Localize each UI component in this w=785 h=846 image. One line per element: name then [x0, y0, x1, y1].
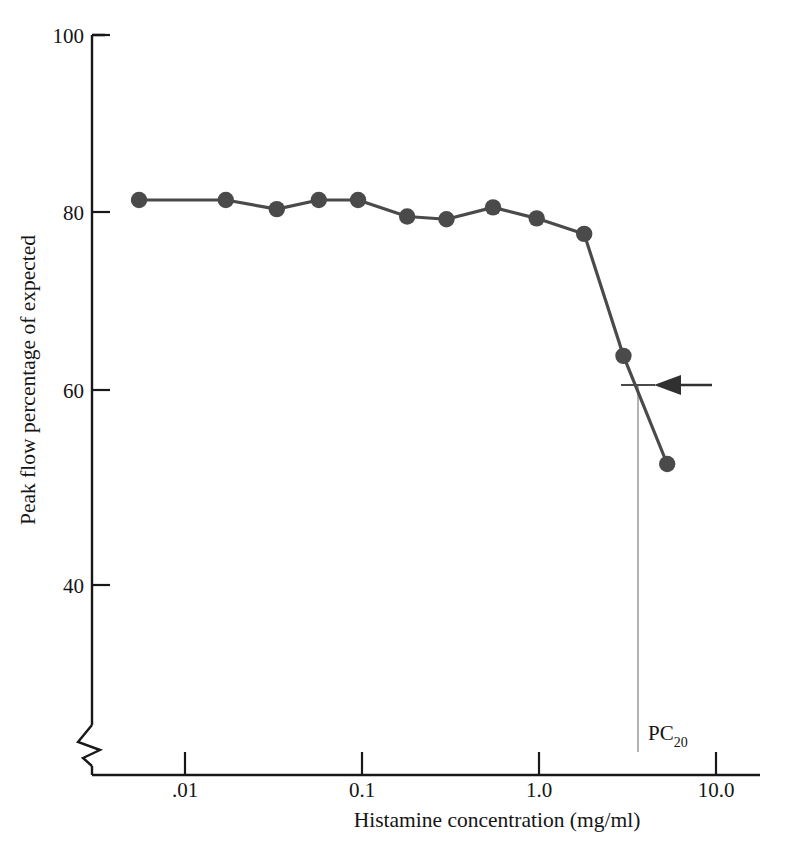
pc20-label-base: PC	[648, 721, 674, 745]
x-tick-label-0p1: 0.1	[349, 778, 375, 802]
data-point	[659, 456, 675, 472]
data-point	[615, 348, 631, 364]
pc20-arrow-head	[654, 375, 681, 395]
data-point	[399, 208, 415, 224]
y-tick-label-60: 60	[63, 379, 84, 403]
pc20-label-subscript: 20	[674, 735, 688, 750]
data-point	[311, 192, 327, 208]
axis-break-zigzag	[78, 725, 100, 766]
x-axis-title: Histamine concentration (mg/ml)	[354, 808, 641, 832]
x-tick-label-0p01: .01	[172, 778, 198, 802]
data-point	[576, 226, 592, 242]
y-axis-line	[92, 35, 105, 725]
data-point	[218, 192, 234, 208]
y-tick-label-40: 40	[63, 574, 84, 598]
x-tick-label-10p0: 10.0	[698, 778, 735, 802]
chart-plot-area: 100 80 60 40 .01 0.1 1.0 10.0 Histamine …	[0, 0, 785, 846]
data-point	[350, 192, 366, 208]
data-point	[528, 210, 544, 226]
data-series-markers	[131, 192, 676, 472]
data-point	[438, 211, 454, 227]
y-tick-label-100: 100	[53, 24, 85, 48]
data-point	[131, 192, 147, 208]
y-tick-marks	[92, 35, 110, 585]
x-tick-marks	[185, 752, 716, 775]
data-point	[485, 199, 501, 215]
x-tick-label-1p0: 1.0	[526, 778, 552, 802]
pc20-label: PC20	[648, 721, 688, 750]
data-point	[269, 201, 285, 217]
y-tick-label-80: 80	[63, 201, 84, 225]
chart-container: 100 80 60 40 .01 0.1 1.0 10.0 Histamine …	[0, 0, 785, 846]
y-axis-title: Peak flow percentage of expected	[16, 235, 40, 525]
